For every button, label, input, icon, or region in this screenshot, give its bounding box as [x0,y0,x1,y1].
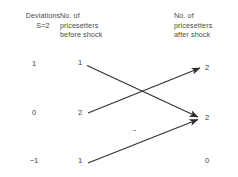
header-pricesetters-before-shock: No. of pricesetters before shock [60,11,126,40]
stray-mark [133,130,136,131]
diagram-canvas: Deviations S=2 No. of pricesetters befor… [0,0,238,177]
before-shock-value-row-3: 1 [78,157,88,165]
header-pricesetters-after-shock: No. of pricesetters after shock [174,11,238,40]
after-shock-value-row-1: 2 [205,64,217,72]
after-shock-value-row-3: 0 [205,157,217,165]
deviation-value-row-2: 0 [12,109,56,117]
after-shock-value-row-2: 2 [205,114,217,122]
deviation-value-row-1: 1 [12,60,56,68]
arrow-before1-bottom-to-after2-mid [88,120,198,164]
arrow-before1-to-after2-mid [87,66,198,118]
before-shock-value-row-2: 2 [78,109,88,117]
before-shock-value-row-1: 1 [78,59,88,67]
deviation-value-row-3: −1 [12,157,56,165]
arrow-before2-to-after2-top [88,68,200,113]
